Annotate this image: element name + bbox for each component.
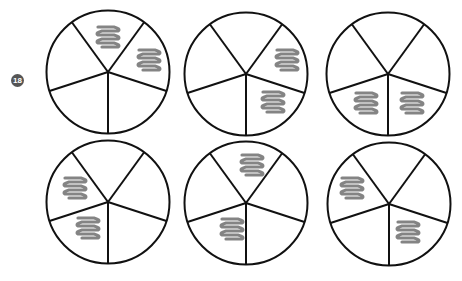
fraction-circle-1 xyxy=(47,11,170,134)
fraction-circle-4 xyxy=(47,141,170,264)
fraction-circle-3 xyxy=(327,13,450,136)
fraction-circle-5 xyxy=(185,142,308,265)
fraction-circles xyxy=(0,0,462,281)
fraction-worksheet: 18 xyxy=(0,0,462,281)
fraction-circle-2 xyxy=(185,13,308,136)
fraction-circle-6 xyxy=(328,143,451,266)
